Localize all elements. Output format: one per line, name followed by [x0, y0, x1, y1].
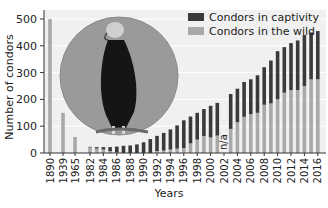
bar-wild	[289, 90, 293, 153]
bar-wild	[316, 79, 320, 153]
bar-wild	[249, 114, 253, 153]
bar-wild	[276, 99, 280, 153]
bar-captivity	[182, 120, 186, 148]
y-tick-label: 500	[16, 13, 37, 26]
bar-captivity	[108, 147, 112, 151]
legend-swatch-wild	[188, 27, 204, 35]
bar-captivity	[262, 67, 266, 105]
bar-wild	[73, 137, 77, 153]
bar-captivity	[142, 142, 146, 153]
bar-wild	[309, 79, 313, 153]
y-tick-label: 200	[16, 93, 37, 106]
bar-captivity	[216, 103, 220, 136]
bar-wild	[102, 150, 106, 153]
x-tick-label: 1994	[165, 158, 176, 183]
bar-wild	[175, 149, 179, 153]
x-tick-label: 1965	[70, 158, 81, 183]
bar-captivity	[122, 146, 126, 153]
bar-wild	[262, 105, 266, 153]
bar-captivity	[209, 106, 213, 138]
legend-swatch-captivity	[188, 13, 204, 21]
y-axis-ticks: 0100200300400500	[16, 13, 44, 160]
bar-wild	[169, 150, 173, 153]
bar-wild	[236, 122, 240, 153]
bar-captivity	[88, 147, 92, 148]
bar-wild	[229, 129, 233, 153]
x-tick-label: 2014	[299, 158, 310, 183]
x-tick-label: 2016	[312, 158, 323, 183]
bar-wild	[296, 90, 300, 153]
x-tick-label: 1986	[111, 158, 122, 183]
x-tick-label: 1988	[125, 158, 136, 183]
bar-captivity	[283, 47, 287, 93]
bar-captivity	[202, 109, 206, 136]
bar-captivity	[303, 35, 307, 86]
legend-label-wild: Condors in the wild	[209, 25, 315, 38]
x-tick-label: 1982	[85, 158, 96, 183]
x-axis-title: Years	[153, 187, 183, 200]
x-axis-ticks: 1890193919651982198419861988199019921994…	[45, 153, 324, 183]
bar-wild	[256, 113, 260, 153]
bar-wild	[209, 137, 213, 153]
bar-captivity	[289, 43, 293, 90]
bar-wild	[202, 136, 206, 153]
bar-captivity	[135, 144, 139, 153]
bar-wild	[189, 143, 193, 153]
bar-wild	[269, 103, 273, 153]
x-tick-label: 1998	[192, 158, 203, 183]
x-tick-label: 1890	[45, 158, 56, 183]
condor-population-chart: n/a 0100200300400500 1890193919651982198…	[0, 0, 328, 208]
x-tick-label: 2010	[272, 158, 283, 183]
x-tick-label: 1990	[138, 158, 149, 183]
bar-wild	[95, 148, 99, 153]
bar-captivity	[276, 51, 280, 99]
bar-wild	[61, 113, 65, 153]
bar-captivity	[149, 139, 153, 153]
bar-captivity	[256, 75, 260, 113]
bar-captivity	[242, 82, 246, 117]
na-annotation: n/a	[218, 134, 229, 150]
bar-wild	[283, 93, 287, 153]
bar-wild	[195, 140, 199, 153]
bar-captivity	[309, 32, 313, 79]
condor-photo-icon	[60, 17, 178, 135]
bar-captivity	[162, 133, 166, 151]
bar-wild	[48, 19, 52, 153]
x-tick-label: 2004	[232, 158, 243, 183]
bar-captivity	[269, 61, 273, 104]
x-tick-label: 2000	[205, 158, 216, 183]
bar-wild	[242, 117, 246, 153]
bar-captivity	[236, 89, 240, 123]
bar-captivity	[195, 113, 199, 140]
x-tick-label: 1939	[58, 158, 69, 183]
y-tick-label: 0	[30, 147, 37, 160]
bar-captivity	[102, 147, 106, 149]
y-tick-label: 100	[16, 120, 37, 133]
bar-captivity	[296, 40, 300, 90]
y-tick-label: 300	[16, 67, 37, 80]
x-tick-label: 2012	[286, 158, 297, 183]
bar-wild	[303, 86, 307, 153]
x-tick-label: 2002	[219, 158, 230, 183]
bar-captivity	[316, 31, 320, 79]
bar-captivity	[155, 136, 159, 151]
x-tick-label: 2008	[259, 158, 270, 183]
bar-captivity	[249, 79, 253, 114]
bar-wild	[182, 148, 186, 153]
x-tick-label: 2006	[245, 158, 256, 183]
bar-wild	[88, 147, 92, 153]
x-tick-label: 1984	[98, 158, 109, 183]
bar-captivity	[189, 117, 193, 144]
legend-label-captivity: Condors in captivity	[209, 11, 319, 24]
x-tick-label: 1996	[178, 158, 189, 183]
y-axis-title: Number of condors	[3, 34, 16, 140]
bar-captivity	[229, 94, 233, 129]
bar-captivity	[95, 147, 99, 148]
bar-captivity	[128, 145, 132, 153]
bar-captivity	[175, 125, 179, 148]
x-tick-label: 1992	[152, 158, 163, 183]
y-tick-label: 400	[16, 40, 37, 53]
bar-captivity	[169, 129, 173, 149]
bar-captivity	[115, 147, 119, 153]
